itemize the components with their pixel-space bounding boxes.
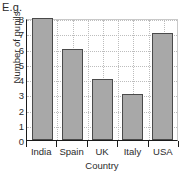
y-axis-tick-labels: 012345678 <box>12 19 24 141</box>
y-tick-label: 5 <box>19 60 24 69</box>
y-tick-label: 1 <box>19 121 24 130</box>
bar-india <box>32 18 53 140</box>
y-tick-label: 7 <box>19 30 24 39</box>
bar-slot <box>87 20 117 140</box>
x-axis-tick-labels: IndiaSpainUKItalyUSA <box>26 146 178 157</box>
x-tick-label: Italy <box>117 146 147 157</box>
bar-series <box>27 20 177 140</box>
x-tick <box>178 141 179 147</box>
x-tick-label: UK <box>87 146 117 157</box>
x-tick-label: India <box>26 146 56 157</box>
x-axis-title: Country <box>26 160 178 171</box>
y-tick-label: 2 <box>19 106 24 115</box>
y-tick-label: 8 <box>19 15 24 24</box>
x-tick-label: Spain <box>56 146 86 157</box>
bar-slot <box>27 20 57 140</box>
y-tick-label: 6 <box>19 45 24 54</box>
bar-slot <box>57 20 87 140</box>
bar-slot <box>117 20 147 140</box>
bar-uk <box>92 79 113 140</box>
y-tick-label: 0 <box>19 137 24 146</box>
bar-chart-figure: E.g. Number of pupils 012345678 IndiaSpa… <box>0 0 182 176</box>
bar-usa <box>152 33 173 140</box>
bar-slot <box>147 20 177 140</box>
plot-area <box>26 19 178 141</box>
y-tick-label: 3 <box>19 91 24 100</box>
y-tick-label: 4 <box>19 76 24 85</box>
bar-spain <box>62 49 83 141</box>
bar-italy <box>122 94 143 140</box>
x-tick-label: USA <box>148 146 178 157</box>
